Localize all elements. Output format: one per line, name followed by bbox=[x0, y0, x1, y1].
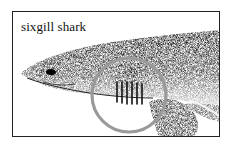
figure-caption: sixgill shark bbox=[21, 19, 86, 35]
eye-icon bbox=[46, 69, 56, 75]
shark-body bbox=[21, 30, 220, 137]
figure-frame: sixgill shark bbox=[12, 11, 220, 137]
